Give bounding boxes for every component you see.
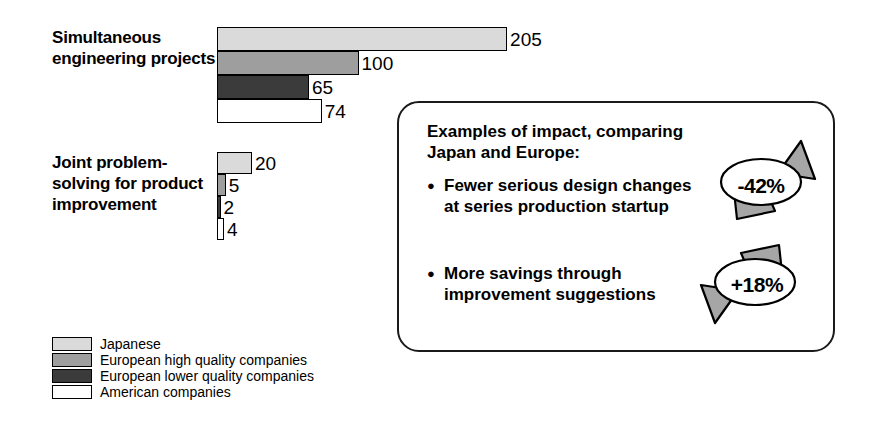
impact-badge-decrease: -42% <box>697 135 821 231</box>
callout-bullet-item: Fewer serious design changes at series p… <box>427 175 707 217</box>
bar-japanese[interactable] <box>217 27 507 51</box>
group-label-joint-problem-solving: Joint problem-solving for product improv… <box>52 152 217 215</box>
callout-bullet-item: More savings through improvement suggest… <box>427 263 707 305</box>
bar-row: 20 <box>217 152 276 174</box>
legend-item-label: European lower quality companies <box>100 369 314 384</box>
up-right-arrow-icon <box>695 235 819 331</box>
bar-european-high-quality[interactable] <box>217 174 226 196</box>
legend: Japanese European high quality companies… <box>52 336 314 400</box>
legend-swatch-icon <box>52 353 92 367</box>
bar-american-companies[interactable] <box>217 99 322 123</box>
legend-item-label: American companies <box>100 385 231 400</box>
callout-heading: Examples of impact, comparing Japan and … <box>427 121 697 163</box>
impact-badge-increase: +18% <box>695 235 819 331</box>
bar-value-label: 65 <box>309 78 333 97</box>
legend-item-american-companies[interactable]: American companies <box>52 384 314 400</box>
bar-value-label: 2 <box>221 198 235 217</box>
bar-value-label: 4 <box>224 220 238 239</box>
legend-item-label: European high quality companies <box>100 353 307 368</box>
bar-japanese[interactable] <box>217 152 252 174</box>
bar-row: 5 <box>217 174 276 196</box>
bar-group-joint-problem-solving: 20 5 2 4 <box>217 152 276 240</box>
bar-american-companies[interactable] <box>217 218 224 240</box>
bar-european-lower-quality[interactable] <box>217 75 309 99</box>
impact-callout-box: Examples of impact, comparing Japan and … <box>397 101 835 352</box>
bar-row: 65 <box>217 75 542 99</box>
bar-row: 100 <box>217 51 542 75</box>
bar-row: 2 <box>217 196 276 218</box>
legend-item-european-lower-quality[interactable]: European lower quality companies <box>52 368 314 384</box>
group-label-simultaneous-engineering-projects: Simultaneous engineering projects <box>52 27 217 69</box>
bar-value-label: 100 <box>359 54 394 73</box>
badge-ellipse <box>721 159 801 205</box>
bar-value-label: 74 <box>322 102 346 121</box>
legend-swatch-icon <box>52 369 92 383</box>
badge-ellipse <box>715 259 795 305</box>
chart-canvas: Simultaneous engineering projects 205 10… <box>0 0 873 426</box>
bar-row: 205 <box>217 27 542 51</box>
bar-value-label: 5 <box>226 176 240 195</box>
bar-value-label: 20 <box>252 154 276 173</box>
down-left-arrow-icon <box>697 135 821 231</box>
legend-item-japanese[interactable]: Japanese <box>52 336 314 352</box>
legend-swatch-icon <box>52 385 92 399</box>
legend-item-label: Japanese <box>100 337 161 352</box>
legend-swatch-icon <box>52 337 92 351</box>
bar-row: 4 <box>217 218 276 240</box>
bar-european-high-quality[interactable] <box>217 51 359 75</box>
bar-value-label: 205 <box>507 30 542 49</box>
legend-item-european-high-quality[interactable]: European high quality companies <box>52 352 314 368</box>
